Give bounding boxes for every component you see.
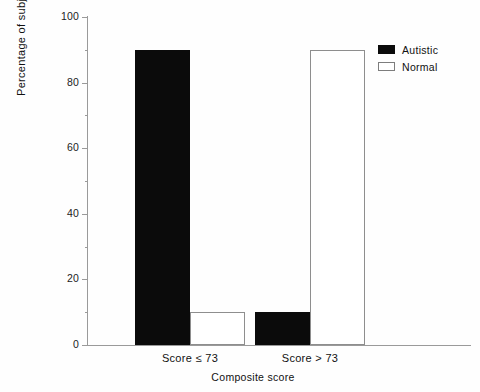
bar-normal-group-2 [310, 50, 365, 345]
y-tick-mark [82, 214, 88, 215]
y-axis-title-anchor: Percentage of subjects [22, 0, 23, 1]
x-axis-line [87, 345, 471, 346]
y-tick-major: 0 [88, 345, 89, 346]
y-tick-mark [85, 115, 88, 116]
bar-autistic-group-1 [135, 50, 190, 345]
y-tick-minor [88, 247, 89, 248]
y-tick-mark [82, 148, 88, 149]
y-axis-title: Percentage of subjects [15, 0, 27, 96]
y-tick-label: 40 [67, 207, 79, 220]
x-tick-label-group-1: Score ≤ 73 [162, 352, 218, 364]
y-tick-mark [82, 279, 88, 280]
legend: Autistic Normal [378, 42, 438, 76]
y-tick-mark [85, 312, 88, 313]
y-tick-major: 60 [88, 148, 89, 149]
y-tick-major: 20 [88, 279, 89, 280]
y-tick-label: 60 [67, 141, 79, 154]
y-tick-major: 40 [88, 214, 89, 215]
y-tick-mark [85, 181, 88, 182]
legend-label-autistic: Autistic [402, 44, 438, 56]
y-tick-label: 100 [61, 10, 79, 23]
y-tick-minor [88, 181, 89, 182]
legend-item-autistic: Autistic [378, 42, 438, 57]
y-tick-major: 80 [88, 83, 89, 84]
x-axis-title: Composite score [0, 371, 480, 383]
hollow-square-icon [378, 62, 395, 71]
bar-chart-figure: Percentage of subjects 020406080100 Scor… [0, 0, 480, 392]
y-tick-minor [88, 312, 89, 313]
y-tick-mark [82, 17, 88, 18]
legend-label-normal: Normal [402, 61, 438, 73]
y-tick-mark [82, 345, 88, 346]
x-axis-title-text: Composite score [211, 371, 294, 383]
y-tick-mark [85, 247, 88, 248]
y-tick-label: 0 [73, 338, 79, 351]
y-tick-minor [88, 50, 89, 51]
y-tick-major: 100 [88, 17, 89, 18]
y-tick-label: 20 [67, 272, 79, 285]
legend-item-normal: Normal [378, 59, 438, 74]
filled-square-icon [378, 45, 395, 54]
y-tick-mark [85, 50, 88, 51]
y-tick-label: 80 [67, 76, 79, 89]
x-tick-label-group-2: Score > 73 [282, 352, 339, 364]
bar-autistic-group-2 [255, 312, 310, 345]
y-tick-minor [88, 115, 89, 116]
bar-normal-group-1 [190, 312, 245, 345]
y-tick-mark [82, 83, 88, 84]
